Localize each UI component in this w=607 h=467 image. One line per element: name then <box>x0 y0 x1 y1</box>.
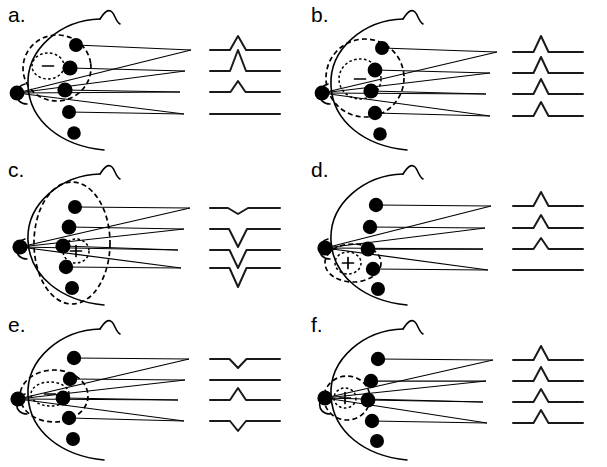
lead-reference-2 <box>322 73 490 93</box>
lead-electrode-4 <box>66 267 181 268</box>
electrode-dot-4[interactable] <box>365 414 379 428</box>
waveform-trace-3 <box>513 79 583 94</box>
waveform-trace-3 <box>513 238 583 249</box>
panel-d: d. <box>303 155 606 310</box>
nose-outline <box>403 166 423 179</box>
electrode-dot-3[interactable] <box>57 82 72 97</box>
electrode-dot-1[interactable] <box>68 200 82 214</box>
panel-f: f. <box>303 310 606 465</box>
electrode-dot-5[interactable] <box>66 432 80 446</box>
lead-electrode-4 <box>373 269 488 270</box>
waveform-trace-1 <box>513 346 583 360</box>
lead-reference-3 <box>17 92 180 93</box>
electrode-dot-2[interactable] <box>363 220 377 234</box>
reference-electrode-dot[interactable] <box>315 86 330 101</box>
reference-electrode-dot[interactable] <box>10 391 25 406</box>
lead-electrode-1 <box>74 358 189 359</box>
waveform-trace-4 <box>210 421 280 431</box>
electrode-dot-1[interactable] <box>69 38 83 52</box>
lead-electrode-1 <box>376 205 491 206</box>
waveform-trace-1 <box>210 36 280 50</box>
waveform-trace-3 <box>210 250 280 268</box>
electrode-dot-4[interactable] <box>62 105 76 119</box>
electrode-dot-3[interactable] <box>361 242 376 257</box>
lead-reference-2 <box>20 229 184 247</box>
electrode-dot-5[interactable] <box>67 126 81 140</box>
nose-outline <box>100 166 120 179</box>
waveform-trace-2 <box>513 367 583 381</box>
lead-reference-2 <box>325 228 485 248</box>
lead-electrode-2 <box>375 70 490 73</box>
lead-reference-3 <box>325 248 483 249</box>
lead-electrode-2 <box>70 379 185 380</box>
electrode-dot-5[interactable] <box>371 282 385 296</box>
reference-electrode-dot[interactable] <box>317 240 332 255</box>
lead-electrode-1 <box>75 207 190 208</box>
electrode-dot-1[interactable] <box>369 198 383 212</box>
dipole-field-contour <box>326 39 404 117</box>
lead-electrode-2 <box>69 227 184 229</box>
electrode-dot-3[interactable] <box>56 391 71 406</box>
lead-reference-1 <box>17 50 191 93</box>
electrode-dot-4[interactable] <box>368 106 382 120</box>
panel-b: b. <box>303 0 606 155</box>
electrode-dot-5[interactable] <box>65 281 79 295</box>
waveform-trace-1 <box>210 208 280 214</box>
reference-electrode-dot[interactable] <box>12 239 27 254</box>
nose-outline <box>100 11 120 24</box>
electrode-dot-5[interactable] <box>373 127 387 141</box>
waveform-trace-4 <box>513 102 583 116</box>
waveform-trace-4 <box>513 410 583 423</box>
waveform-trace-2 <box>513 215 583 228</box>
lead-electrode-1 <box>382 48 497 52</box>
dipole-source-figure: a.b.c.d.e.f. <box>0 0 607 467</box>
lead-electrode-2 <box>70 68 185 71</box>
waveform-trace-2 <box>210 229 280 247</box>
nose-outline <box>403 321 423 334</box>
lead-reference-4 <box>18 399 184 421</box>
electrode-dot-4[interactable] <box>62 411 76 425</box>
electrode-dot-2[interactable] <box>368 63 383 78</box>
waveform-trace-3 <box>210 81 280 92</box>
electrode-dot-2[interactable] <box>62 220 77 235</box>
lead-electrode-2 <box>370 227 485 228</box>
electrode-dot-1[interactable] <box>371 352 385 366</box>
lead-reference-2 <box>17 71 185 93</box>
panel-c: c. <box>0 155 303 310</box>
reference-electrode-dot[interactable] <box>317 390 332 405</box>
lead-electrode-1 <box>76 45 191 50</box>
lead-reference-2 <box>325 381 486 398</box>
nose-outline <box>100 321 120 334</box>
nose-outline <box>403 11 423 24</box>
waveform-trace-2 <box>513 57 583 73</box>
lead-reference-4 <box>325 248 488 270</box>
electrode-dot-3[interactable] <box>363 83 378 98</box>
waveform-trace-3 <box>210 388 280 400</box>
electrode-dot-5[interactable] <box>370 434 384 448</box>
electrode-dot-2[interactable] <box>62 60 77 75</box>
waveform-trace-4 <box>210 268 280 287</box>
electrode-dot-4[interactable] <box>366 262 380 276</box>
waveform-trace-1 <box>513 192 583 206</box>
waveform-trace-3 <box>513 389 583 402</box>
electrode-dot-3[interactable] <box>55 238 70 253</box>
electrode-dot-1[interactable] <box>67 351 81 365</box>
lead-reference-4 <box>17 93 184 114</box>
waveform-trace-1 <box>210 359 280 368</box>
electrode-dot-2[interactable] <box>364 374 378 388</box>
electrode-dot-3[interactable] <box>361 393 376 408</box>
electrode-dot-4[interactable] <box>59 260 73 274</box>
electrode-dot-2[interactable] <box>63 372 77 386</box>
dipole-polarity-plus-icon <box>343 258 354 269</box>
lead-electrode-1 <box>378 359 493 360</box>
lead-electrode-4 <box>372 421 487 423</box>
panel-a: a. <box>0 0 303 155</box>
lead-reference-4 <box>322 93 490 116</box>
reference-electrode-dot[interactable] <box>10 86 25 101</box>
waveform-trace-2 <box>210 50 280 71</box>
waveform-trace-1 <box>513 36 583 52</box>
panel-e: e. <box>0 310 303 465</box>
electrode-dot-1[interactable] <box>375 41 389 55</box>
lead-reference-1 <box>325 360 493 398</box>
